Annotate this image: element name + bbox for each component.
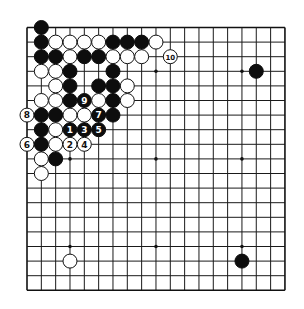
star-point (154, 245, 158, 249)
black-stone-disc (34, 21, 48, 35)
white-stone-disc (63, 108, 77, 122)
white-stone (49, 35, 63, 49)
black-stone (63, 94, 77, 108)
star-point (240, 157, 244, 161)
black-stone (34, 21, 48, 35)
black-stone-disc (106, 108, 120, 122)
black-stone (106, 94, 120, 108)
white-stone (92, 35, 106, 49)
black-stone (120, 35, 134, 49)
black-stone (106, 108, 120, 122)
white-stone-disc (149, 35, 163, 49)
white-stone-disc (34, 94, 48, 108)
go-board: 10987135624 (0, 0, 304, 309)
white-stone (34, 167, 48, 181)
white-stone (120, 94, 134, 108)
black-stone-disc (106, 64, 120, 78)
white-stone: 10 (163, 50, 177, 64)
black-stone: 5 (92, 123, 106, 137)
black-stone: 9 (77, 94, 91, 108)
black-stone (106, 79, 120, 93)
black-stone (63, 79, 77, 93)
black-stone (34, 123, 48, 137)
black-stone-disc (106, 35, 120, 49)
black-stone-disc (34, 50, 48, 64)
black-stone-disc (106, 94, 120, 108)
move-number-label: 5 (96, 125, 102, 135)
white-stone-disc (63, 35, 77, 49)
white-stone (63, 50, 77, 64)
white-stone-disc (92, 35, 106, 49)
white-stone (34, 64, 48, 78)
white-stone (77, 35, 91, 49)
black-stone-disc (106, 79, 120, 93)
move-number-label: 10 (165, 54, 175, 62)
white-stone (149, 35, 163, 49)
white-stone (49, 137, 63, 151)
black-stone (249, 64, 263, 78)
star-point (154, 70, 158, 74)
white-stone-disc (49, 94, 63, 108)
black-stone-disc (34, 35, 48, 49)
white-stone (63, 108, 77, 122)
black-stone-disc (34, 123, 48, 137)
white-stone (49, 79, 63, 93)
black-stone-disc (120, 35, 134, 49)
white-stone-disc (77, 35, 91, 49)
star-point (240, 70, 244, 74)
white-stone: 6 (20, 137, 34, 151)
white-stone: 8 (20, 108, 34, 122)
white-stone-disc (49, 123, 63, 137)
black-stone (49, 50, 63, 64)
white-stone: 2 (63, 137, 77, 151)
black-stone-disc (63, 94, 77, 108)
black-stone-disc (49, 108, 63, 122)
black-stone (106, 35, 120, 49)
move-number-label: 3 (81, 125, 87, 135)
white-stone-disc (106, 50, 120, 64)
white-stone-disc (49, 79, 63, 93)
black-stone (92, 79, 106, 93)
white-stone (49, 94, 63, 108)
black-stone (92, 50, 106, 64)
black-stone: 3 (77, 123, 91, 137)
white-stone: 4 (77, 137, 91, 151)
black-stone: 1 (63, 123, 77, 137)
white-stone-disc (49, 137, 63, 151)
black-stone-disc (34, 137, 48, 151)
black-stone (63, 64, 77, 78)
black-stone (235, 254, 249, 268)
white-stone (106, 50, 120, 64)
black-stone-disc (135, 35, 149, 49)
white-stone-disc (34, 167, 48, 181)
black-stone (49, 108, 63, 122)
star-point (68, 157, 72, 161)
move-number-label: 1 (67, 125, 73, 135)
move-number-label: 4 (81, 140, 87, 150)
star-point (154, 157, 158, 161)
black-stone-disc (49, 50, 63, 64)
move-number-label: 8 (24, 110, 30, 120)
white-stone-disc (63, 254, 77, 268)
white-stone (135, 50, 149, 64)
white-stone (34, 94, 48, 108)
black-stone (34, 108, 48, 122)
white-stone-disc (135, 50, 149, 64)
move-number-label: 2 (67, 140, 73, 150)
black-stone (106, 64, 120, 78)
black-stone (49, 152, 63, 166)
white-stone (63, 254, 77, 268)
black-stone-disc (77, 50, 91, 64)
black-stone-disc (34, 108, 48, 122)
white-stone-disc (34, 64, 48, 78)
white-stone-disc (34, 152, 48, 166)
black-stone-disc (63, 64, 77, 78)
black-stone-disc (235, 254, 249, 268)
white-stone (34, 152, 48, 166)
white-stone (92, 94, 106, 108)
move-number-label: 6 (24, 140, 30, 150)
star-point (240, 245, 244, 249)
move-number-label: 7 (96, 110, 102, 120)
white-stone-disc (120, 94, 134, 108)
white-stone-disc (92, 94, 106, 108)
